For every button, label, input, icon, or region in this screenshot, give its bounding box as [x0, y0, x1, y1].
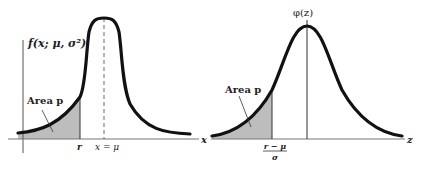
- left-area-label: Area p: [26, 95, 63, 106]
- normal-distribution-diagram: f(x; μ, σ²) x Area p r x = μ φ(z) z Area…: [0, 0, 421, 172]
- left-y-axis-label: f(x; μ, σ²): [27, 37, 86, 50]
- left-x-axis-label: x: [200, 134, 208, 145]
- right-area-label: Area p: [224, 84, 261, 95]
- right-cutoff-numerator: r − μ: [264, 141, 286, 151]
- right-cutoff-denominator: σ: [272, 152, 278, 162]
- right-shaded-area: [212, 90, 272, 139]
- left-mean-label: x = μ: [95, 142, 119, 152]
- left-cutoff-label: r: [77, 142, 83, 152]
- right-y-axis-label: φ(z): [293, 7, 313, 18]
- right-x-axis-label: z: [406, 134, 413, 145]
